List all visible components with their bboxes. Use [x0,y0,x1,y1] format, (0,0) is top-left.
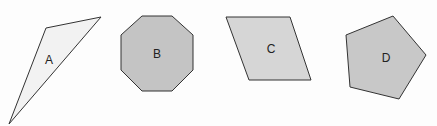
shapes-diagram: A B C D [0,0,437,126]
shapes-svg: A B C D [0,0,437,126]
shape-a-label: A [45,53,53,67]
shape-a-triangle: A [9,17,101,124]
shape-c-parallelogram: C [226,17,311,80]
shape-b-label: B [153,47,161,61]
shape-d-pentagon: D [346,16,426,99]
triangle-shape [9,17,101,124]
shape-c-label: C [267,42,276,56]
shape-d-label: D [382,51,391,65]
shape-b-octagon: B [121,16,193,91]
